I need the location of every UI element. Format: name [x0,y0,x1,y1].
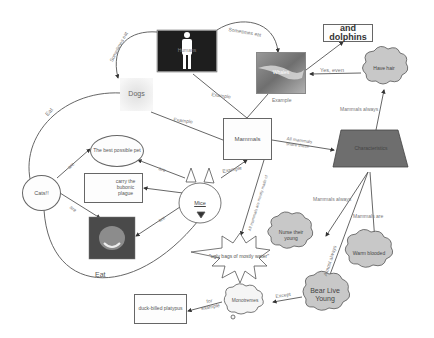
humans-node[interactable]: Humans [157,30,217,72]
mammals-node[interactable]: Mammals [223,118,272,160]
edge-mice-plague [144,188,183,193]
mice-node[interactable] [179,168,221,223]
edge-label-char-nurse: Mammals always [313,196,351,202]
ugly-bags-label: "ugly bags of mostly water" [205,249,273,265]
dogs-node[interactable]: Dogs [120,78,153,111]
edge-label-hair-whales: Yes, even [320,67,344,73]
edge-mammals-whales [247,94,268,118]
plague-node[interactable]: carry the bubonic plague [84,173,143,203]
best-pet-node[interactable]: The best possible pet [90,135,144,167]
platypus-node[interactable]: duck-billed platypus [134,294,187,324]
edge-label-char-hair: Mammals always [340,106,378,112]
concept-map-canvas [0,0,434,338]
warm-node[interactable]: Warm blooded [350,243,388,265]
edge-humans-whales [217,22,278,52]
edge-whales-dolphins [306,42,343,70]
whales-node[interactable]: Whales [256,52,306,94]
cats-node[interactable]: Cats!! [22,175,61,211]
nurse-node[interactable]: Nurse their young [274,223,308,249]
edge-char-nurse [326,172,368,236]
callout-tail [231,315,235,319]
edge-label-cats-mice: Eat [95,271,106,278]
monotremes-node[interactable]: Monotremes [226,290,264,312]
cloud-shapes [224,46,408,319]
edge-label-char-warm: Mammals are [353,213,383,219]
mice-label: Mice [188,198,212,208]
and-dolphins-node[interactable]: and dolphins [323,24,373,42]
edge-mammals-dogs [151,112,223,140]
bear-live-node[interactable]: Bear Live Young [303,284,347,306]
edge-label-mammals-whales: Example [272,97,291,103]
mouse-ear-right [204,168,214,183]
mouse-ear-left [186,168,196,182]
edge-hair-whales [310,73,361,74]
have-hair-node[interactable]: Have hair [364,58,404,80]
characteristics-label: Characteristics [340,140,402,158]
